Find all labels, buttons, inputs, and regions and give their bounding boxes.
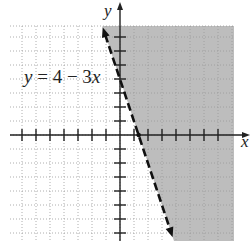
y-axis-arrow-icon	[117, 2, 123, 10]
equation-label: y = 4 − 3x	[22, 66, 101, 87]
equation-x: x	[91, 66, 101, 87]
line-arrow-bottom-icon	[166, 226, 174, 237]
inequality-graph: y x y = 4 − 3x	[0, 0, 251, 241]
x-axis-label: x	[240, 132, 249, 151]
svg-text:y = 4 − 3x: y = 4 − 3x	[22, 66, 101, 87]
equation-y: y	[22, 66, 33, 87]
shade-polygon	[102, 26, 234, 241]
shaded-region	[102, 26, 234, 241]
y-axis-label: y	[102, 1, 112, 20]
x-intercept-point	[136, 133, 140, 137]
equation-body: = 4 − 3	[32, 66, 91, 87]
